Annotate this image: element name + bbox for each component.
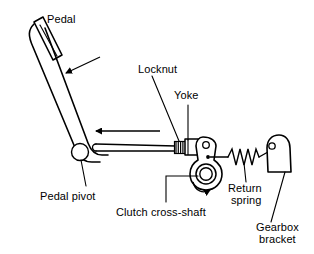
gearbox-bracket — [267, 135, 291, 172]
label-pedal: Pedal — [47, 13, 76, 26]
bracket-hole — [269, 143, 275, 149]
label-return-spring-line1: Return — [228, 182, 262, 195]
lever-upper-hole — [203, 142, 210, 149]
pedal-travel-arrow — [66, 57, 100, 73]
leader-pedal-pivot — [81, 160, 86, 186]
return-spring — [210, 149, 268, 165]
spring-coils — [228, 149, 259, 165]
label-gearbox-bracket-line2: bracket — [259, 233, 296, 246]
leader-gearbox-bracket — [271, 172, 285, 222]
locknut — [175, 142, 186, 154]
bracket-outline — [267, 135, 291, 172]
clutch-linkage-diagram: Pedal Locknut Yoke Pedal pivot Clutch cr… — [0, 0, 314, 254]
pedal-pivot-bore — [72, 144, 89, 161]
push-rod — [93, 144, 176, 151]
label-pedal-pivot: Pedal pivot — [40, 190, 96, 203]
leader-return-spring — [244, 163, 246, 182]
push-rod-top-edge — [96, 144, 176, 146]
pedal-arm — [29, 24, 100, 162]
label-yoke: Yoke — [174, 89, 198, 102]
label-clutch-cross-shaft: Clutch cross-shaft — [116, 206, 206, 219]
cross-shaft-bore-inner — [200, 168, 212, 180]
label-return-spring-line2: spring — [231, 194, 262, 207]
label-gearbox-bracket-line1: Gearbox — [256, 221, 299, 234]
pedal-assembly — [29, 17, 108, 162]
label-locknut: Locknut — [138, 63, 177, 76]
push-rod-left-cap — [93, 144, 96, 151]
